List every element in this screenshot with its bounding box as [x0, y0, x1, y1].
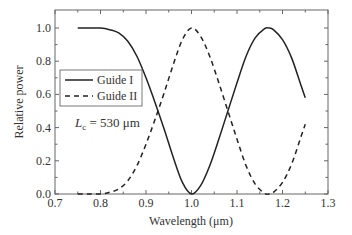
annotation-main: L [74, 115, 82, 130]
legend: Guide I Guide II [60, 70, 142, 106]
legend-label-guide-2: Guide II [97, 89, 137, 103]
x-tick-label: 0.8 [93, 196, 108, 210]
y-tick-label: 1.0 [36, 21, 51, 35]
annotation: Lc = 530 μm [74, 115, 140, 132]
x-tick-label: 1.3 [321, 196, 336, 210]
svg-text:Lc = 530 μm: Lc = 530 μm [74, 115, 140, 132]
chart: 0.70.80.91.01.11.21.30.00.20.40.60.81.0 … [0, 0, 352, 235]
x-axis-label: Wavelength (μm) [149, 214, 233, 228]
x-tick-label: 1.2 [275, 196, 290, 210]
x-tick-label: 1.1 [230, 196, 245, 210]
y-tick-label: 0.4 [36, 121, 51, 135]
y-tick-label: 0.8 [36, 54, 51, 68]
y-tick-label: 0.0 [36, 187, 51, 201]
legend-label-guide-1: Guide I [97, 73, 133, 87]
axis-ticks: 0.70.80.91.01.11.21.30.00.20.40.60.81.0 [36, 10, 336, 210]
annotation-rest: = 530 μm [86, 115, 140, 130]
x-tick-label: 1.0 [184, 196, 199, 210]
y-tick-label: 0.2 [36, 154, 51, 168]
y-tick-label: 0.6 [36, 87, 51, 101]
series-guide-1-line [78, 28, 306, 194]
data-series [78, 28, 306, 195]
y-axis-label: Relative power [12, 66, 26, 139]
series-guide-2-line [78, 28, 306, 194]
x-tick-label: 0.9 [139, 196, 154, 210]
chart-svg: 0.70.80.91.01.11.21.30.00.20.40.60.81.0 … [0, 0, 352, 235]
